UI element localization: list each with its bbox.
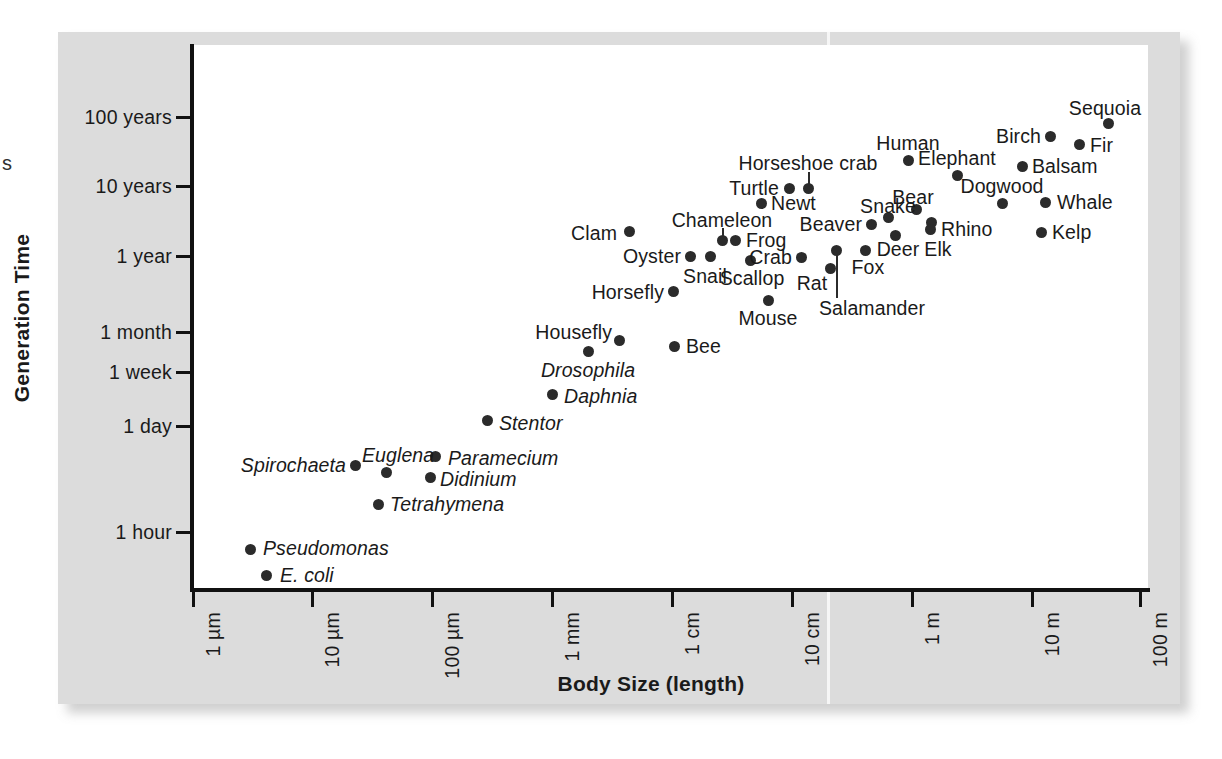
y-tick-mark xyxy=(176,255,191,258)
x-tick-mark xyxy=(791,592,794,607)
y-tick-label: 100 years xyxy=(85,106,172,129)
data-point-label: Whale xyxy=(1057,191,1113,214)
data-point-marker xyxy=(997,198,1008,209)
x-tick-label: 1 µm xyxy=(202,612,225,657)
data-point-label: Horsefly xyxy=(592,281,664,304)
x-tick-mark xyxy=(192,592,195,607)
data-point-marker xyxy=(1036,227,1047,238)
data-point-marker xyxy=(482,415,493,426)
figure-container: s 100 years10 years1 year1 month1 week1 … xyxy=(0,0,1222,759)
data-point-label: Crab xyxy=(749,246,792,269)
data-point-label: Elephant xyxy=(918,147,996,170)
data-point-marker xyxy=(925,224,936,235)
x-axis-title-text: Body Size (length) xyxy=(558,672,745,695)
data-point-marker xyxy=(685,251,696,262)
data-point-label: Elk xyxy=(924,238,951,261)
data-point-label: Stentor xyxy=(499,412,563,435)
x-tick-label: 100 m xyxy=(1149,612,1172,667)
x-tick-mark xyxy=(911,592,914,607)
data-point-label: Tetrahymena xyxy=(390,493,504,516)
data-point-marker xyxy=(866,219,877,230)
page-bleed-fragment: s xyxy=(2,152,12,175)
x-tick-label: 100 µm xyxy=(441,612,464,679)
data-point-label: Spirochaeta xyxy=(241,454,346,477)
y-tick-label: 10 years xyxy=(96,175,172,198)
x-tick-label: 10 cm xyxy=(801,612,824,666)
data-point-label: E. coli xyxy=(280,564,334,587)
y-tick-label: 1 day xyxy=(123,415,172,438)
x-tick-mark xyxy=(311,592,314,607)
y-tick-label: 1 year xyxy=(117,245,172,268)
data-point-label: Scallop xyxy=(720,267,785,290)
data-point-label: Rhino xyxy=(941,218,992,241)
data-point-marker xyxy=(763,295,774,306)
data-point-label: Salamander xyxy=(819,297,925,320)
data-point-label: Deer xyxy=(877,238,920,261)
x-tick-mark xyxy=(1139,592,1142,607)
data-point-marker xyxy=(624,226,635,237)
data-point-label: Fir xyxy=(1090,134,1113,157)
data-point-label: Daphnia xyxy=(564,385,637,408)
data-point-label: Didinium xyxy=(440,468,517,491)
data-point-marker xyxy=(1045,131,1056,142)
data-point-marker xyxy=(669,341,680,352)
data-point-marker xyxy=(1040,197,1051,208)
x-axis-title: Body Size (length) xyxy=(0,672,1222,696)
y-axis-title: Generation Time xyxy=(10,234,34,402)
data-point-label: Beaver xyxy=(800,213,862,236)
x-tick-label: 1 cm xyxy=(681,612,704,655)
y-axis-spine xyxy=(190,44,194,592)
data-point-marker xyxy=(860,245,871,256)
data-point-label: Dogwood xyxy=(960,175,1043,198)
data-point-label: Mouse xyxy=(738,307,797,330)
y-tick-mark xyxy=(176,116,191,119)
data-point-marker xyxy=(350,460,361,471)
data-point-marker xyxy=(261,570,272,581)
data-point-marker xyxy=(668,286,679,297)
data-point-label: Euglena xyxy=(362,444,434,467)
data-point-marker xyxy=(614,335,625,346)
data-point-label: Paramecium xyxy=(448,447,558,470)
data-point-label: Bee xyxy=(686,335,721,358)
x-axis-spine xyxy=(190,588,1150,592)
x-tick-mark xyxy=(551,592,554,607)
data-point-label: Rat xyxy=(797,272,828,295)
data-point-marker xyxy=(796,252,807,263)
y-tick-label: 1 month xyxy=(100,321,172,344)
y-tick-mark xyxy=(176,531,191,534)
x-tick-label: 10 m xyxy=(1041,612,1064,656)
data-point-marker xyxy=(425,472,436,483)
data-point-label: Housefly xyxy=(535,321,612,344)
x-tick-mark xyxy=(431,592,434,607)
data-point-marker xyxy=(1074,139,1085,150)
data-point-marker xyxy=(245,544,256,555)
x-tick-mark xyxy=(671,592,674,607)
y-tick-label: 1 hour xyxy=(116,521,173,544)
data-point-marker xyxy=(373,499,384,510)
label-leader-line xyxy=(808,172,810,186)
x-tick-label: 1 m xyxy=(921,612,944,645)
data-point-label: Kelp xyxy=(1052,221,1091,244)
label-leader-line xyxy=(836,252,838,298)
y-tick-mark xyxy=(176,371,191,374)
y-tick-mark xyxy=(176,331,191,334)
data-point-marker xyxy=(705,251,716,262)
data-point-marker xyxy=(730,235,741,246)
data-point-label: Bear xyxy=(892,186,934,209)
data-point-marker xyxy=(547,389,558,400)
data-point-marker xyxy=(903,155,914,166)
data-point-label: Balsam xyxy=(1032,155,1098,178)
y-tick-label: 1 week xyxy=(109,361,172,384)
data-point-label: Turtle xyxy=(729,177,779,200)
data-point-label: Sequoia xyxy=(1069,97,1141,120)
data-point-label: Oyster xyxy=(623,245,681,268)
data-point-marker xyxy=(381,467,392,478)
data-point-label: Drosophila xyxy=(541,359,635,382)
x-tick-label: 10 µm xyxy=(321,612,344,668)
data-point-label: Clam xyxy=(571,222,617,245)
y-tick-mark xyxy=(176,425,191,428)
data-point-label: Pseudomonas xyxy=(263,537,389,560)
y-tick-mark xyxy=(176,185,191,188)
label-leader-line xyxy=(722,228,724,238)
x-tick-mark xyxy=(1031,592,1034,607)
